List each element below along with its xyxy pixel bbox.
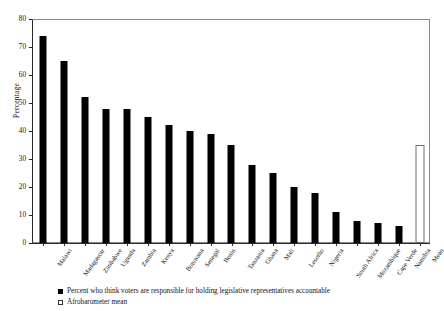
x-label-zambia: Zambia	[140, 247, 157, 268]
legend-item-percent: Percent who think voters are responsible…	[58, 286, 330, 297]
bar-ghana	[249, 165, 256, 243]
x-tick-mark	[127, 243, 128, 246]
y-tick-label: 40	[19, 126, 26, 136]
bar-slot	[200, 19, 221, 243]
bar-slot	[117, 19, 138, 243]
bar-madagascar	[61, 61, 68, 243]
hollow-square-icon	[58, 300, 63, 305]
bar-slot	[179, 19, 200, 243]
x-tick-mark	[232, 243, 233, 246]
x-label-mozambique: Mozambique	[376, 247, 402, 280]
bar-slot	[263, 19, 284, 243]
bar-slot	[326, 19, 347, 243]
x-label-mean: Mean	[430, 247, 444, 263]
x-tick-mark	[64, 243, 65, 246]
x-tick-mark	[357, 243, 358, 246]
x-label-nigeria: Nigeria	[328, 247, 345, 267]
x-tick-mark	[169, 243, 170, 246]
bar-zimbabwe	[82, 97, 89, 243]
bar-nigeria	[312, 193, 319, 243]
y-tick-mark	[29, 187, 32, 188]
bar-mali	[270, 173, 277, 243]
x-tick-mark	[378, 243, 379, 246]
y-tick-mark	[29, 75, 32, 76]
y-tick-40: 40	[0, 126, 32, 136]
x-tick-mark	[148, 243, 149, 246]
bar-slot	[409, 19, 430, 243]
bar-slot	[242, 19, 263, 243]
x-label-benin: Benin	[221, 247, 236, 264]
bar-kenya	[144, 117, 151, 243]
bar-mozambique	[353, 221, 360, 243]
x-label-mali: Mali	[283, 247, 296, 261]
x-axis-category-labels: MalawiMadagascarZimbabweUgandaZambiaKeny…	[33, 247, 430, 291]
x-tick-mark	[43, 243, 44, 246]
bar-namibia	[395, 226, 402, 243]
y-tick-label: 0	[22, 238, 26, 248]
bar-slot	[75, 19, 96, 243]
bar-uganda	[103, 109, 110, 243]
x-tick-mark	[211, 243, 212, 246]
bar-malawi	[40, 36, 47, 243]
bar-slot	[346, 19, 367, 243]
x-label-madagascar: Madagascar	[82, 247, 106, 277]
legend-label-mean: Afrobarometer mean	[67, 297, 127, 308]
y-tick-80: 80	[0, 14, 32, 24]
bar-slot	[96, 19, 117, 243]
x-label-kenya: Kenya	[159, 247, 175, 265]
y-tick-10: 10	[0, 210, 32, 220]
x-label-tanzania: Tanzania	[246, 247, 265, 270]
x-label-botswana: Botswana	[184, 247, 205, 272]
y-tick-label: 30	[19, 154, 26, 164]
y-tick-label: 20	[19, 182, 26, 192]
bar-slot	[137, 19, 158, 243]
bar-slot	[367, 19, 388, 243]
x-label-malawi: Malawi	[56, 247, 73, 268]
bar-senegal	[186, 131, 193, 243]
y-tick-label: 80	[19, 14, 26, 24]
y-tick-mark	[29, 159, 32, 160]
y-tick-label: 70	[19, 42, 26, 52]
y-tick-mark	[29, 47, 32, 48]
x-tick-mark	[273, 243, 274, 246]
x-tick-mark	[399, 243, 400, 246]
legend-item-mean: Afrobarometer mean	[58, 297, 330, 308]
y-tick-0: 0	[0, 238, 32, 248]
y-tick-label: 50	[19, 98, 26, 108]
x-label-ghana: Ghana	[264, 247, 280, 265]
x-label-senegal: Senegal	[203, 247, 221, 268]
y-tick-mark	[29, 243, 32, 244]
bar-zambia	[124, 109, 131, 243]
y-tick-mark	[29, 215, 32, 216]
bar-lesotho	[291, 187, 298, 243]
x-tick-mark	[336, 243, 337, 246]
bar-slot	[158, 19, 179, 243]
y-tick-label: 60	[19, 70, 26, 80]
x-tick-mark	[294, 243, 295, 246]
x-tick-mark	[190, 243, 191, 246]
x-tick-mark	[315, 243, 316, 246]
x-label-lesotho: Lesotho	[307, 247, 325, 268]
x-tick-mark	[252, 243, 253, 246]
y-tick-mark	[29, 131, 32, 132]
bar-slot	[33, 19, 54, 243]
y-tick-mark	[29, 19, 32, 20]
bar-botswana	[165, 125, 172, 243]
bar-series-group	[33, 19, 430, 243]
x-tick-mark	[420, 243, 421, 246]
bar-slot	[305, 19, 326, 243]
y-tick-30: 30	[0, 154, 32, 164]
bar-tanzania	[228, 145, 235, 243]
y-tick-mark	[29, 103, 32, 104]
y-tick-20: 20	[0, 182, 32, 192]
y-tick-60: 60	[0, 70, 32, 80]
bar-slot	[221, 19, 242, 243]
bar-south-africa	[332, 212, 339, 243]
x-tick-mark	[85, 243, 86, 246]
filled-square-icon	[58, 289, 63, 294]
bar-slot	[388, 19, 409, 243]
y-tick-50: 50	[0, 98, 32, 108]
chart-legend: Percent who think voters are responsible…	[58, 286, 330, 308]
bar-slot	[54, 19, 75, 243]
